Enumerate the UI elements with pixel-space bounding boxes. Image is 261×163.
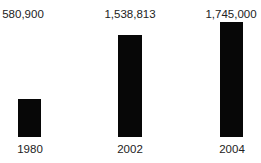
category-label-1980: 1980 <box>17 143 43 156</box>
bar-2002 <box>118 35 142 137</box>
bar-2004 <box>220 22 243 137</box>
category-label-2004: 2004 <box>219 143 245 156</box>
bar-chart: 580,900 1,538,813 1,745,000 1980 2002 20… <box>0 0 261 163</box>
bar-1980 <box>18 99 41 137</box>
value-label-1980: 580,900 <box>2 8 44 21</box>
category-label-2002: 2002 <box>117 143 143 156</box>
value-label-2002: 1,538,813 <box>104 8 155 21</box>
value-label-2004: 1,745,000 <box>205 8 256 21</box>
